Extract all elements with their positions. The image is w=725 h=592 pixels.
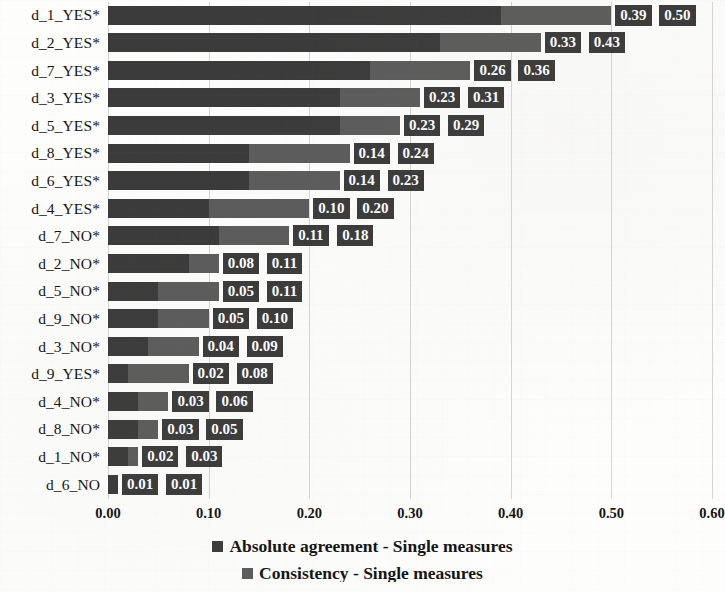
bar-value-label-absolute: 0.39 bbox=[615, 5, 651, 26]
bar-value-label-consistency: 0.18 bbox=[337, 225, 373, 246]
bar-value-label-consistency: 0.43 bbox=[589, 32, 625, 53]
x-axis-tick-label: 0.30 bbox=[397, 505, 422, 522]
chart-legend: Absolute agreement - Single measures Con… bbox=[0, 533, 725, 560]
chart-row: 0.140.24 bbox=[108, 140, 712, 167]
chart-row: 0.230.31 bbox=[108, 85, 712, 112]
bar-value-label-consistency: 0.50 bbox=[659, 5, 695, 26]
category-label: d_9_NO* bbox=[0, 310, 100, 328]
x-axis-tick-label: 0.40 bbox=[498, 505, 523, 522]
plot-area: 0.390.500.330.430.260.360.230.310.230.29… bbox=[108, 2, 712, 499]
x-axis: 0.000.100.200.300.400.500.60 bbox=[108, 505, 712, 527]
category-label: d_4_YES* bbox=[0, 200, 100, 218]
bar-value-label-consistency: 0.31 bbox=[468, 87, 504, 108]
category-label: d_5_NO* bbox=[0, 282, 100, 300]
chart-row: 0.330.43 bbox=[108, 30, 712, 57]
bar-value-label-consistency: 0.08 bbox=[237, 363, 273, 384]
bar-absolute-agreement bbox=[108, 447, 128, 466]
legend-item-absolute-agreement: Absolute agreement - Single measures bbox=[0, 533, 725, 560]
x-axis-tick-label: 0.60 bbox=[699, 505, 724, 522]
chart-row: 0.110.18 bbox=[108, 223, 712, 250]
bar-absolute-agreement bbox=[108, 144, 249, 163]
x-axis-tick-label: 0.20 bbox=[297, 505, 322, 522]
chart-row: 0.050.11 bbox=[108, 278, 712, 305]
gridline bbox=[712, 2, 713, 499]
bar-value-label-absolute: 0.14 bbox=[354, 143, 390, 164]
chart-row: 0.390.50 bbox=[108, 2, 712, 29]
category-label: d_7_NO* bbox=[0, 227, 100, 245]
bar-value-label-absolute: 0.05 bbox=[223, 281, 259, 302]
bar-absolute-agreement bbox=[108, 420, 138, 439]
bar-value-label-consistency: 0.11 bbox=[267, 281, 302, 302]
bar-value-label-absolute: 0.11 bbox=[293, 225, 328, 246]
bar-value-label-absolute: 0.05 bbox=[213, 308, 249, 329]
bar-absolute-agreement bbox=[108, 171, 249, 190]
bar-absolute-agreement bbox=[108, 254, 189, 273]
category-label: d_2_YES* bbox=[0, 34, 100, 52]
chart-row: 0.030.06 bbox=[108, 389, 712, 416]
legend-swatch-icon bbox=[212, 541, 223, 552]
bar-value-label-consistency: 0.03 bbox=[186, 446, 222, 467]
category-label: d_6_NO bbox=[0, 476, 100, 494]
bar-value-label-absolute: 0.03 bbox=[172, 391, 208, 412]
chart-row: 0.230.29 bbox=[108, 112, 712, 139]
bar-absolute-agreement bbox=[108, 88, 340, 107]
category-label: d_3_NO* bbox=[0, 338, 100, 356]
chart-row: 0.020.03 bbox=[108, 444, 712, 471]
category-label: d_8_YES* bbox=[0, 144, 100, 162]
bar-absolute-agreement bbox=[108, 226, 219, 245]
bar-absolute-agreement bbox=[108, 309, 158, 328]
bar-value-label-absolute: 0.23 bbox=[424, 87, 460, 108]
chart-row: 0.030.05 bbox=[108, 416, 712, 443]
x-axis-tick-label: 0.00 bbox=[95, 505, 120, 522]
bar-value-label-absolute: 0.02 bbox=[193, 363, 229, 384]
category-label: d_7_YES* bbox=[0, 62, 100, 80]
bar-value-label-absolute: 0.10 bbox=[313, 198, 349, 219]
bar-absolute-agreement bbox=[108, 392, 138, 411]
x-axis-tick-label: 0.10 bbox=[196, 505, 221, 522]
bar-value-label-absolute: 0.04 bbox=[203, 336, 239, 357]
category-label: d_8_NO* bbox=[0, 420, 100, 438]
bar-value-label-absolute: 0.26 bbox=[474, 60, 510, 81]
legend-item-consistency: Consistency - Single measures bbox=[0, 560, 725, 582]
chart-row: 0.050.10 bbox=[108, 306, 712, 333]
category-label: d_3_YES* bbox=[0, 89, 100, 107]
bar-absolute-agreement bbox=[108, 61, 370, 80]
bar-absolute-agreement bbox=[108, 475, 118, 494]
chart-row: 0.080.11 bbox=[108, 251, 712, 278]
bar-value-label-consistency: 0.01 bbox=[166, 474, 202, 495]
bar-value-label-absolute: 0.33 bbox=[545, 32, 581, 53]
bar-value-label-absolute: 0.03 bbox=[162, 419, 198, 440]
bar-absolute-agreement bbox=[108, 199, 209, 218]
bar-value-label-consistency: 0.06 bbox=[216, 391, 252, 412]
chart-row: 0.260.36 bbox=[108, 57, 712, 84]
chart-row: 0.040.09 bbox=[108, 333, 712, 360]
chart-row: 0.140.23 bbox=[108, 168, 712, 195]
bar-value-label-absolute: 0.08 bbox=[223, 253, 259, 274]
bar-value-label-consistency: 0.11 bbox=[267, 253, 302, 274]
legend-label-consistency: Consistency - Single measures bbox=[259, 563, 483, 582]
category-label: d_1_NO* bbox=[0, 448, 100, 466]
bar-value-label-absolute: 0.02 bbox=[142, 446, 178, 467]
bar-value-label-consistency: 0.09 bbox=[247, 336, 283, 357]
category-label: d_4_NO* bbox=[0, 393, 100, 411]
bar-value-label-absolute: 0.23 bbox=[404, 115, 440, 136]
bar-value-label-consistency: 0.10 bbox=[257, 308, 293, 329]
horizontal-bar-chart: 0.390.500.330.430.260.360.230.310.230.29… bbox=[0, 0, 725, 592]
bar-absolute-agreement bbox=[108, 116, 340, 135]
category-label: d_1_YES* bbox=[0, 6, 100, 24]
chart-row: 0.020.08 bbox=[108, 361, 712, 388]
chart-row: 0.100.20 bbox=[108, 195, 712, 222]
bar-absolute-agreement bbox=[108, 337, 148, 356]
bar-value-label-consistency: 0.36 bbox=[518, 60, 554, 81]
bar-value-label-absolute: 0.01 bbox=[122, 474, 158, 495]
bar-absolute-agreement bbox=[108, 6, 501, 25]
x-axis-tick-label: 0.50 bbox=[599, 505, 624, 522]
bar-value-label-consistency: 0.20 bbox=[357, 198, 393, 219]
legend-label-absolute-agreement: Absolute agreement - Single measures bbox=[229, 536, 512, 556]
category-label: d_2_NO* bbox=[0, 255, 100, 273]
category-label: d_6_YES* bbox=[0, 172, 100, 190]
bar-absolute-agreement bbox=[108, 364, 128, 383]
legend-swatch-icon bbox=[242, 568, 253, 579]
category-label: d_5_YES* bbox=[0, 117, 100, 135]
chart-row: 0.010.01 bbox=[108, 471, 712, 498]
